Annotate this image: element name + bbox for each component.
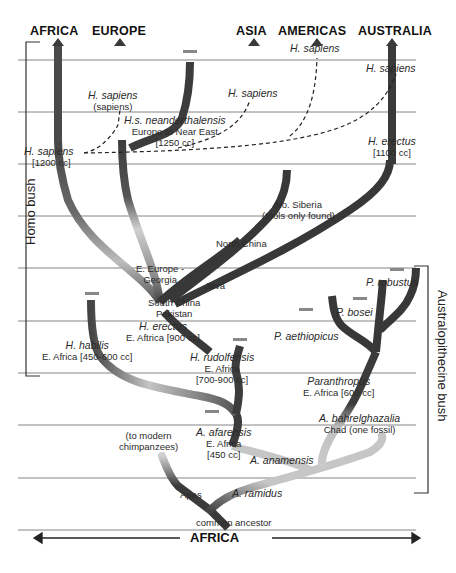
region-australia: AUSTRALIA [358, 24, 432, 38]
bottom-africa-label: AFRICA [190, 530, 239, 545]
label-europe-georgia: E. Europe -Georgia [136, 263, 184, 285]
region-europe: EUROPE [92, 24, 146, 38]
homo-bush-label: Homo bush [23, 179, 38, 245]
label-rudolfensis: H. rudolfensisE. Africa[700-900 cc] [190, 352, 254, 385]
label-south-china-pakistan: South ChinaPakistan [148, 297, 200, 319]
label-anamensis: A. anamensis [250, 455, 314, 466]
label-sapiens-africa: H. sapiens[1200 cc] [24, 146, 74, 168]
label-java: Java [205, 280, 225, 291]
label-ramidus: A. ramidus [232, 488, 282, 499]
australopithecine-bush-label: Australopithecine bush [435, 290, 450, 422]
label-robustus: P. robustus [366, 277, 418, 288]
label-sapiens-asia: H. sapiens [228, 88, 278, 99]
region-asia: ASIA [236, 24, 267, 38]
label-common-ancestor: common ancestor [196, 517, 272, 528]
human-evolution-diagram: AFRICA EUROPE ASIA AMERICAS AUSTRALIA Ho… [0, 0, 456, 573]
label-apes: Apes [180, 489, 202, 500]
australopithecine-bracket [414, 266, 428, 493]
label-sapiens-europe: H. sapiens(sapiens) [88, 90, 138, 112]
column-arrowheads [52, 38, 398, 46]
label-bahrelghazalia: A. bahrelghazaliaChad (one fossil) [319, 413, 400, 435]
label-neanderthalensis: H.s. neanderthalensisEurope to Near East… [124, 115, 226, 148]
label-bosei: P. bosei [336, 307, 373, 318]
label-sapiens-australia: H. sapiens [366, 63, 416, 74]
label-afarensis: A. afarensisE. Africa[450 cc] [196, 427, 251, 460]
region-africa: AFRICA [30, 24, 78, 38]
label-sapiens-americas: H. sapiens [290, 43, 340, 54]
label-aethiopicus: P. aethiopicus [274, 331, 339, 342]
label-to-chimpanzees: (to modernchimpanzees) [119, 430, 178, 452]
label-habilis: H. habilisE. Africa [450-600 cc] [42, 340, 132, 362]
label-no-siberia: No. Siberia(tools only found) [262, 199, 335, 221]
label-north-china: North China [216, 238, 267, 249]
region-americas: AMERICAS [278, 24, 346, 38]
label-erectus-australia: H. erectus[1100 cc] [368, 136, 416, 158]
label-paranthropus: ParanthropusE. Africa [600 cc] [303, 376, 374, 398]
label-erectus-africa: H. erectusE. Aftrica [900 cc] [126, 321, 200, 343]
